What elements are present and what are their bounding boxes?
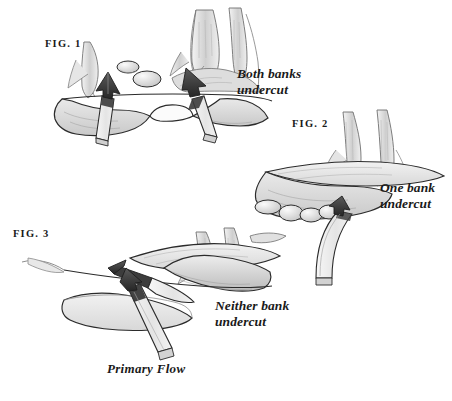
fig1-left-vegetation (68, 42, 98, 98)
neither-bank-undercut-annotation: Neither bank undercut (215, 298, 289, 329)
figure-3-caption: FIG. 3 (13, 228, 49, 239)
fig1-undercut-pool (150, 105, 193, 121)
primary-flow-annotation: Primary Flow (107, 361, 185, 377)
one-bank-undercut-annotation: One bank undercut (380, 180, 435, 211)
fig1-rocks (117, 61, 161, 87)
fig2-far-bank (250, 233, 286, 243)
illustration-page: FIG. 1 FIG. 2 FIG. 3 Both banks undercut… (0, 0, 452, 401)
figure-2-caption: FIG. 2 (292, 118, 328, 129)
figure-1-caption: FIG. 1 (45, 38, 81, 49)
both-banks-undercut-annotation: Both banks undercut (237, 66, 301, 97)
figure-3-group (22, 228, 280, 360)
